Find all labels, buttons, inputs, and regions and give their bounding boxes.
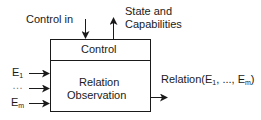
control-in-label: Control in xyxy=(26,13,73,26)
relation-label-line1: Relation xyxy=(79,76,119,89)
input-label-em: Em xyxy=(11,96,24,112)
input-label-ellipsis: … xyxy=(12,79,23,92)
state-label-line1: State and xyxy=(125,5,172,18)
relation-label-line2: Observation xyxy=(67,89,126,102)
state-label-line2: Capabilities xyxy=(125,18,182,31)
output-label: Relation(E1, ..., Em) xyxy=(161,73,255,89)
control-section-label: Control xyxy=(81,43,116,56)
